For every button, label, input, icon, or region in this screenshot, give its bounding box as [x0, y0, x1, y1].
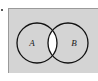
venn-diagram-svg: A B — [9, 9, 98, 73]
set-a-label: A — [28, 38, 35, 48]
corner-dot-mark — [1, 9, 3, 11]
venn-panel: A B — [8, 8, 98, 73]
venn-figure: A B — [0, 0, 98, 81]
set-b-label: B — [71, 38, 77, 48]
